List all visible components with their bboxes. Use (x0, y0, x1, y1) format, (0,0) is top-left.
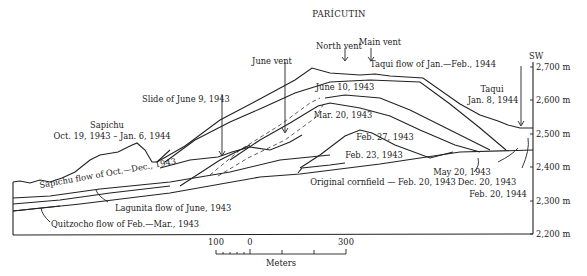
tick-2700: 2,700 m (536, 62, 570, 72)
elevation-axis: 2,700 m 2,600 m 2,500 m 2,400 m 2,300 m … (529, 51, 570, 239)
diagram-title: PARÍCUTIN (312, 8, 366, 19)
feb20-1944-arrow (522, 138, 528, 168)
cone-june10-surface (165, 80, 506, 162)
scale-unit-label: Meters (266, 258, 296, 268)
taqui-flow-label: Taqui flow of Jan.—Feb., 1944 (370, 59, 496, 69)
scale-label-0: 0 (247, 237, 252, 247)
scale-label-100: 100 (208, 237, 224, 247)
dec20-label: Dec. 20, 1943 (458, 177, 516, 187)
tick-2400: 2,400 m (536, 162, 570, 172)
tick-2500: 2,500 m (536, 129, 570, 139)
base-line (13, 234, 533, 235)
tick-2300: 2,300 m (536, 196, 570, 206)
june-vent-label: June vent (251, 56, 293, 66)
main-vent-label: Main vent (359, 37, 402, 47)
flow-channel (180, 145, 250, 186)
lagunita-flow-surface (13, 186, 170, 204)
june10-label-text: June 10, 1943 (315, 82, 375, 92)
feb27-label: Feb. 27, 1943 (356, 132, 414, 142)
taqui-flow-arrow (518, 66, 524, 126)
north-vent-label: North vent (316, 41, 362, 51)
quitzocho-arrow (41, 208, 50, 222)
sapichu-dates-label: Oct. 19, 1943 – Jan. 6, 1944 (54, 131, 171, 141)
scale-bar: 100 0 300 Meters (208, 237, 354, 268)
direction-label: SW (529, 51, 544, 61)
taqui-date-label: Jan. 8, 1944 (467, 95, 519, 105)
taqui-label: Taqui (480, 84, 503, 94)
cornfield-label: Original cornfield — Feb. 20, 1943 (310, 177, 456, 187)
lagunita-flow-label: Lagunita flow of June, 1943 (115, 203, 231, 213)
quitzocho-flow-surface (13, 206, 60, 211)
scale-label-300: 300 (338, 237, 354, 247)
feb20-1944-label: Feb. 20, 1944 (469, 189, 527, 199)
feb23-label: Feb. 23, 1943 (345, 150, 403, 160)
tick-2600: 2,600 m (536, 95, 570, 105)
tick-2200: 2,200 m (536, 229, 570, 239)
slide-surface (160, 135, 302, 168)
lagunita-arrow (96, 190, 108, 202)
may20-label: May 20, 1943 (433, 167, 491, 177)
sapichu-label: Sapichu (90, 120, 125, 130)
quitzocho-flow-label: Quitzocho flow of Feb.—Mar., 1943 (51, 219, 199, 229)
volcano-cross-section: PARÍCUTIN 2,700 m 2,600 m 2,500 m 2,400 … (0, 0, 587, 276)
june-vent-arrow (282, 62, 288, 133)
sapichu-flow-label: Sapichu flow of Oct.—Dec., 1943 (39, 156, 177, 190)
mar20-label: Mar. 20, 1943 (314, 110, 373, 120)
slide-label: Slide of June 9, 1943 (142, 94, 230, 104)
